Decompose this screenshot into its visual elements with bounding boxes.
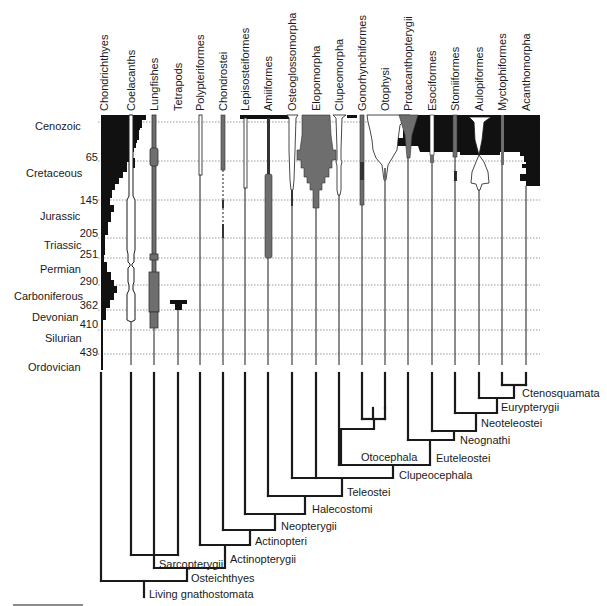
taxon-label: Stomiiformes <box>450 47 461 111</box>
elopomorpha-range <box>297 115 336 365</box>
gonorhynchiformes-range <box>360 115 364 365</box>
age-label: 439 <box>68 346 98 358</box>
taxon-label: Lepisosteiformes <box>240 28 251 111</box>
age-label: 205 <box>68 227 98 239</box>
period-label: Permian <box>40 263 81 275</box>
clade-label: Eurypterygii <box>501 401 559 413</box>
taxon-label: Otophysi <box>380 68 391 111</box>
clade-label: Halecostomi <box>312 503 373 515</box>
taxon-label: Gonorhynchiformes <box>357 15 368 111</box>
clade-label: Actinopteri <box>255 535 307 547</box>
taxon-label: Clupeomorpha <box>334 39 345 111</box>
taxon-label: Esociformes <box>427 50 438 111</box>
protacanthopterygii-range <box>399 115 418 365</box>
age-label: 290 <box>68 275 98 287</box>
gonorhynchiformes-top-bar <box>347 115 357 118</box>
esociformes-range <box>430 115 434 365</box>
clade-label: Sarcopterygii <box>159 558 223 570</box>
chondrostei-range <box>221 115 225 365</box>
polypteriformes-range <box>199 115 202 365</box>
euteleost-black-profile <box>398 115 540 185</box>
otophysi-range <box>367 115 410 365</box>
clade-label: Teleostei <box>347 486 390 498</box>
taxon-label: Chondrichthyes <box>99 35 110 111</box>
holostei-top-bar <box>240 115 290 119</box>
osteoglossomorpha-range <box>287 115 298 365</box>
amiiformes-range <box>265 118 272 365</box>
taxon-label: Aulopiformes <box>474 47 485 111</box>
clade-label: Clupeocephala <box>399 469 472 481</box>
period-label: Silurian <box>45 332 82 344</box>
clade-label: Ctenosquamata <box>522 387 600 399</box>
taxon-label: Tetrapods <box>173 63 184 111</box>
clade-label: Otocephala <box>361 451 417 463</box>
taxon-label: Acanthomorpha <box>521 33 532 111</box>
taxon-label: Coelacanths <box>126 50 137 111</box>
clade-label: Living gnathostomata <box>149 588 254 600</box>
tetrapods-range <box>170 300 187 310</box>
clade-label: Osteichthyes <box>191 572 255 584</box>
period-label: Jurassic <box>40 210 80 222</box>
chondrichthyes-profile <box>101 115 145 370</box>
clade-label: Neognathi <box>460 434 510 446</box>
stomiiformes-range <box>453 115 457 365</box>
taxon-label: Chondrostei <box>218 52 229 111</box>
period-label: Ordovician <box>28 361 81 373</box>
lungfishes-range <box>149 115 159 328</box>
taxon-label: Amiiformes <box>263 56 274 111</box>
period-label: Cenozoic <box>35 120 81 132</box>
lepisosteiformes-range <box>244 118 247 365</box>
clade-label: Neoteleostei <box>481 417 542 429</box>
age-label: 362 <box>68 299 98 311</box>
taxon-label: Lungfishes <box>149 58 160 111</box>
taxon-label: Myctophiformes <box>497 33 508 111</box>
clade-label: Euteleostei <box>436 452 490 464</box>
age-label: 145 <box>68 194 98 206</box>
taxon-label: Protacanthopterygii <box>403 16 414 111</box>
clade-label: Neopterygii <box>281 520 337 532</box>
taxon-label: Osteoglossomorpha <box>287 13 298 111</box>
myctophiformes-range <box>501 115 504 365</box>
age-label: 410 <box>68 318 98 330</box>
age-label: 65 <box>68 151 98 163</box>
period-label: Cretaceous <box>26 167 82 179</box>
taxon-label: Polypteriformes <box>195 35 206 111</box>
age-label: 251 <box>68 248 98 260</box>
taxon-label: Elopomorpha <box>311 46 322 111</box>
clade-label: Actinopterygii <box>230 553 296 565</box>
